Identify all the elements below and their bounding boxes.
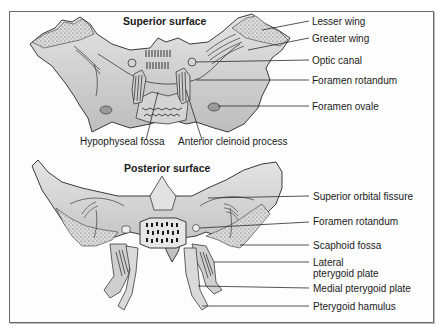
label-medial-pterygoid-plate: Medial pterygoid plate <box>313 283 411 294</box>
posterior-surface-drawing <box>32 160 282 310</box>
label-foramen-rotandum-posterior: Foramen rotandum <box>313 216 398 227</box>
label-optic-canal: Optic canal <box>312 55 362 66</box>
label-pterygoid-hamulus: Pterygoid hamulus <box>313 301 396 312</box>
label-lesser-wing: Lesser wing <box>312 16 365 27</box>
label-foramen-rotandum-superior: Foramen rotandum <box>312 75 397 86</box>
label-foramen-ovale: Foramen ovale <box>312 101 379 112</box>
label-scaphoid-fossa: Scaphoid fossa <box>313 240 381 251</box>
label-anterior-cleinoid-process: Anterior cleinoid process <box>178 136 288 147</box>
label-greater-wing: Greater wing <box>312 33 369 44</box>
label-superior-orbital-fissure: Superior orbital fissure <box>313 191 413 202</box>
label-lateral-pterygoid-plate-line1: Lateral <box>313 257 344 268</box>
panel-title-posterior: Posterior surface <box>124 162 210 174</box>
superior-surface-drawing <box>30 14 290 132</box>
label-hypophyseal-fossa: Hypophyseal fossa <box>80 136 165 147</box>
label-lateral-pterygoid-plate-line2: pterygoid plate <box>313 268 379 279</box>
panel-title-superior: Superior surface <box>123 15 206 27</box>
